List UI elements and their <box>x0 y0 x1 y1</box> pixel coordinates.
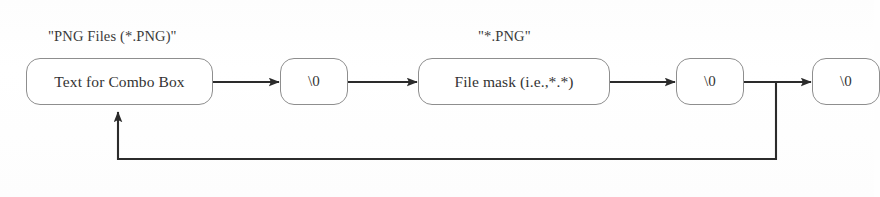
node-null-3[interactable]: \0 <box>812 58 880 105</box>
node-file-mask-label: File mask (i.e.,*.*) <box>454 74 573 90</box>
node-combo-text[interactable]: Text for Combo Box <box>26 58 213 105</box>
annotation-png-mask: "*.PNG" <box>478 28 531 45</box>
node-null-1-label: \0 <box>308 74 320 89</box>
node-null-2-label: \0 <box>704 74 716 89</box>
node-null-2[interactable]: \0 <box>676 58 744 105</box>
node-file-mask[interactable]: File mask (i.e.,*.*) <box>418 58 610 105</box>
node-combo-text-label: Text for Combo Box <box>54 74 184 90</box>
annotation-png-files: "PNG Files (*.PNG)" <box>48 28 177 45</box>
node-null-1[interactable]: \0 <box>280 58 348 105</box>
node-null-3-label: \0 <box>840 74 852 89</box>
